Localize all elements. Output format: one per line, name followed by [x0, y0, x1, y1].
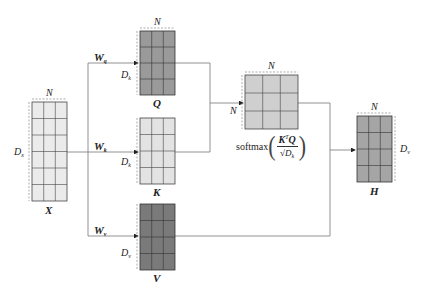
- x-matrix-label: X: [45, 205, 52, 216]
- softmax-formula: softmax ( KTQ √Dk ): [236, 134, 306, 159]
- diagram-canvas: [0, 0, 424, 292]
- wq-label: Wq: [94, 52, 107, 64]
- q-width-label: N: [154, 17, 161, 27]
- x-height-label: Dx: [14, 147, 24, 158]
- k-height-label: Dk: [121, 157, 131, 168]
- numerator: KTQ: [277, 134, 298, 147]
- denominator: √Dk: [280, 147, 294, 159]
- right-paren: ): [299, 133, 306, 159]
- h-width-label: N: [371, 102, 378, 112]
- connector-lines: [67, 63, 355, 236]
- q-matrix-label: Q: [153, 98, 161, 109]
- wk-label: Wk: [94, 141, 107, 153]
- matrix-q: [137, 28, 175, 95]
- wv-label: Wv: [94, 225, 106, 237]
- matrix-v: [137, 204, 175, 270]
- k-matrix-label: K: [153, 187, 160, 198]
- attention-height-label: N: [230, 106, 237, 116]
- matrix-h: [357, 113, 395, 182]
- v-matrix-label: V: [153, 273, 160, 284]
- v-height-label: Dv: [121, 248, 131, 259]
- fraction: KTQ √Dk: [277, 134, 298, 159]
- h-height-label: Dv: [400, 144, 410, 155]
- matrix-attention: [242, 72, 298, 129]
- matrix-k: [137, 118, 175, 184]
- q-height-label: Dk: [121, 70, 131, 81]
- x-width-label: N: [46, 88, 53, 98]
- attention-width-label: N: [268, 61, 275, 71]
- softmax-func: softmax: [236, 141, 268, 152]
- left-paren: (: [268, 133, 275, 159]
- h-matrix-label: H: [370, 186, 379, 197]
- matrix-x: [29, 99, 67, 201]
